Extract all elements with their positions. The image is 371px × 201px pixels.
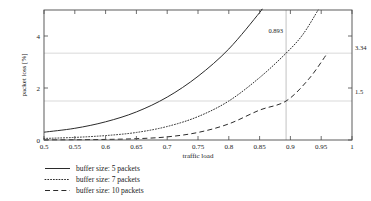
x-tick-label: 0.7 xyxy=(163,143,172,151)
legend-label-buffer-5: buffer size: 5 packets xyxy=(76,164,140,173)
annotation-label-y-1-5: 1.5 xyxy=(355,88,363,95)
x-tick-label: 0.95 xyxy=(315,143,328,151)
x-axis-title: traffic load xyxy=(183,152,214,160)
annotation-label-x-0-893: 0.893 xyxy=(268,27,283,34)
y-tick-label: 2 xyxy=(37,85,41,93)
x-tick-label: 0.5 xyxy=(40,143,49,151)
chart-canvas: 0.50.550.60.650.70.750.80.850.90.951 024… xyxy=(0,0,371,201)
x-tick-label: 0.65 xyxy=(130,143,143,151)
x-tick-label: 0.75 xyxy=(192,143,205,151)
y-tick-label: 0 xyxy=(37,137,41,145)
y-axis-title: packet loss [%] xyxy=(20,53,28,96)
annotation-label-y-3-34: 3.34 xyxy=(355,44,367,51)
y-tick-label: 4 xyxy=(37,33,41,41)
chart-background xyxy=(0,0,371,201)
x-tick-label: 0.8 xyxy=(224,143,233,151)
packet-loss-chart: 0.50.550.60.650.70.750.80.850.90.951 024… xyxy=(0,0,371,201)
x-tick-label: 1 xyxy=(350,143,354,151)
legend-label-buffer-7: buffer size: 7 packets xyxy=(76,175,140,184)
x-tick-label: 0.6 xyxy=(101,143,110,151)
x-tick-label: 0.55 xyxy=(69,143,82,151)
legend-label-buffer-10: buffer size: 10 packets xyxy=(76,186,144,195)
x-tick-label: 0.85 xyxy=(253,143,266,151)
x-tick-label: 0.9 xyxy=(286,143,295,151)
